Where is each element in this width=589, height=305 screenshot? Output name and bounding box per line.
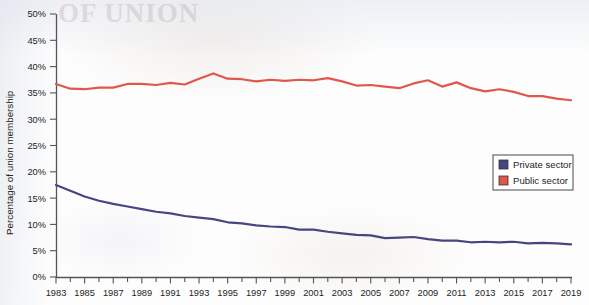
x-tick-label: 1999: [275, 288, 296, 298]
y-tick-label: 30%: [27, 115, 46, 125]
x-axis-ticks: 1983198519871989199119931995199719992001…: [46, 277, 582, 298]
y-tick-label: 35%: [27, 88, 46, 98]
x-tick-label: 1987: [103, 288, 124, 298]
y-tick-label: 10%: [27, 220, 46, 230]
x-tick-label: 2001: [303, 288, 324, 298]
x-tick-label: 2007: [389, 288, 410, 298]
x-tick-label: 2009: [418, 288, 439, 298]
x-tick-label: 2003: [332, 288, 353, 298]
y-axis-ticks: 0%5%10%15%20%25%30%35%40%45%50%: [27, 9, 56, 282]
y-tick-label: 25%: [27, 141, 46, 151]
x-tick-label: 1991: [160, 288, 181, 298]
x-tick-label: 2019: [561, 288, 582, 298]
legend-swatch-public-sector[interactable]: [499, 176, 508, 185]
y-axis-title: Percentage of union membership: [4, 90, 15, 235]
series-line-private-sector: [56, 185, 571, 244]
x-tick-label: 1989: [131, 288, 152, 298]
x-tick-label: 2017: [532, 288, 553, 298]
x-tick-label: 1995: [217, 288, 238, 298]
y-tick-label: 0%: [33, 272, 46, 282]
legend-label-private-sector[interactable]: Private sector: [513, 159, 572, 170]
y-tick-label: 45%: [27, 36, 46, 46]
series-line-public-sector: [56, 73, 571, 100]
y-tick-label: 15%: [27, 194, 46, 204]
x-tick-label: 2005: [360, 288, 381, 298]
legend-swatch-private-sector[interactable]: [499, 160, 508, 169]
y-tick-label: 40%: [27, 62, 46, 72]
x-tick-label: 1985: [74, 288, 95, 298]
x-tick-label: 2015: [503, 288, 524, 298]
y-axis-title-text: Percentage of union membership: [4, 90, 15, 235]
x-tick-label: 2011: [447, 288, 467, 298]
y-tick-label: 5%: [33, 246, 46, 256]
legend-label-public-sector[interactable]: Public sector: [513, 175, 569, 186]
x-tick-label: 1997: [246, 288, 267, 298]
x-tick-label: 2013: [475, 288, 496, 298]
y-tick-label: 50%: [27, 9, 46, 19]
y-tick-label: 20%: [27, 167, 46, 177]
x-tick-label: 1983: [46, 288, 67, 298]
x-tick-label: 1993: [189, 288, 210, 298]
union-membership-line-chart: 0%5%10%15%20%25%30%35%40%45%50% 19831985…: [0, 0, 589, 305]
chart-legend[interactable]: Private sectorPublic sector: [493, 155, 573, 190]
